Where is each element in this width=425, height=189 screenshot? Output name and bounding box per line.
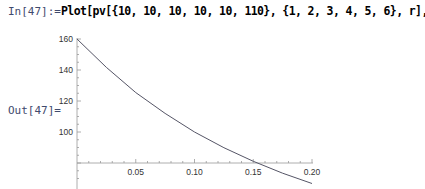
x-tick-label: 0.15: [245, 167, 262, 177]
plot-graphic: 0.050.100.150.20100120140160: [0, 0, 425, 189]
y-tick-label: 140: [59, 65, 73, 75]
x-tick-label: 0.05: [127, 167, 144, 177]
y-tick-label: 100: [59, 127, 73, 137]
x-tick-label: 0.20: [304, 167, 321, 177]
plot-axes: 0.050.100.150.20100120140160: [59, 34, 321, 189]
y-tick-label: 120: [59, 96, 73, 106]
y-tick-label: 160: [59, 34, 73, 44]
x-tick-label: 0.10: [186, 167, 203, 177]
